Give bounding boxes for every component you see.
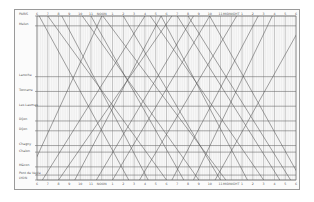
- station-label: Dijon: [19, 117, 27, 121]
- time-tick-label: MIDNIGHT: [223, 12, 239, 16]
- train-schedule-diagram: PARISMelunLarocheTonnerreLes LaumesDijon…: [0, 0, 314, 202]
- time-axis-bottom: 67891011NOON1234567891011MIDNIGHT123456: [36, 182, 297, 186]
- train-path: [193, 16, 272, 180]
- time-tick-label: 2: [252, 12, 254, 16]
- time-tick-label: 6: [36, 182, 38, 186]
- time-tick-label: 1: [112, 12, 114, 16]
- time-tick-label: 10: [208, 182, 212, 186]
- time-tick-label: NOON: [97, 12, 107, 16]
- time-tick-label: 7: [47, 12, 49, 16]
- time-tick-label: 1: [241, 182, 243, 186]
- time-tick-label: 9: [68, 12, 70, 16]
- time-tick-label: 6: [295, 182, 297, 186]
- time-tick-label: 9: [68, 182, 70, 186]
- station-lines: [35, 16, 296, 180]
- station-label: Laroche: [19, 73, 32, 77]
- time-tick-label: 10: [78, 182, 82, 186]
- time-tick-label: 1: [112, 182, 114, 186]
- time-tick-label: 6: [295, 12, 297, 16]
- station-label: LYON: [19, 176, 28, 180]
- time-tick-label: 3: [133, 182, 135, 186]
- time-tick-label: 6: [36, 12, 38, 16]
- time-tick-label: 4: [144, 12, 146, 16]
- time-tick-label: 8: [58, 12, 60, 16]
- time-tick-label: 8: [187, 12, 189, 16]
- time-tick-label: 6: [165, 12, 167, 16]
- station-label: Pont de Veyle: [19, 171, 41, 175]
- station-label: Chagny: [19, 142, 31, 146]
- train-path: [188, 16, 291, 180]
- time-tick-label: 11: [218, 182, 222, 186]
- time-axis-top: 67891011NOON1234567891011MIDNIGHT123456: [36, 12, 297, 16]
- train-path: [103, 16, 226, 180]
- time-tick-label: 9: [198, 12, 200, 16]
- time-tick-label: 4: [273, 12, 275, 16]
- station-label: Mâcon: [19, 163, 29, 167]
- time-tick-label: NOON: [97, 182, 107, 186]
- time-tick-label: 9: [198, 182, 200, 186]
- train-path: [150, 16, 263, 180]
- time-tick-label: 5: [284, 182, 286, 186]
- station-label: Chalon: [19, 149, 30, 153]
- time-tick-label: 11: [89, 12, 93, 16]
- train-path: [210, 16, 302, 180]
- time-tick-label: 7: [176, 182, 178, 186]
- time-tick-label: 3: [263, 182, 265, 186]
- time-tick-label: 5: [155, 12, 157, 16]
- time-tick-label: 1: [241, 12, 243, 16]
- time-tick-label: 5: [155, 182, 157, 186]
- time-tick-label: MIDNIGHT: [223, 182, 239, 186]
- time-tick-label: 7: [176, 12, 178, 16]
- time-tick-label: 2: [122, 182, 124, 186]
- station-label: Dijon: [19, 127, 27, 131]
- time-tick-label: 11: [89, 182, 93, 186]
- station-label: Tonnerre: [18, 88, 33, 92]
- station-label: PARIS: [19, 12, 28, 16]
- time-tick-label: 6: [165, 182, 167, 186]
- time-tick-label: 8: [187, 182, 189, 186]
- time-tick-label: 11: [218, 12, 222, 16]
- time-tick-label: 8: [58, 182, 60, 186]
- time-tick-label: 3: [263, 12, 265, 16]
- time-tick-label: 10: [208, 12, 212, 16]
- time-tick-label: 2: [122, 12, 124, 16]
- station-label: Les Laumes: [19, 103, 38, 107]
- train-path: [42, 16, 145, 180]
- time-tick-label: 10: [78, 12, 82, 16]
- time-tick-label: 2: [252, 182, 254, 186]
- time-tick-label: 3: [133, 12, 135, 16]
- time-tick-label: 5: [284, 12, 286, 16]
- time-tick-label: 4: [144, 182, 146, 186]
- time-tick-label: 7: [47, 182, 49, 186]
- station-label: Melun: [19, 22, 29, 26]
- time-tick-label: 4: [273, 182, 275, 186]
